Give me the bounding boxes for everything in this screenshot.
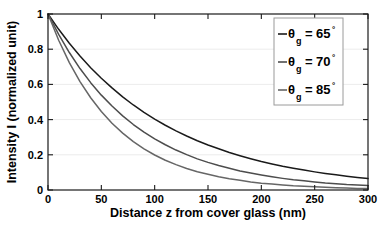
legend-degree-symbol: ° [332, 53, 335, 62]
legend: θg=65°θg=70°θg=85° [274, 18, 343, 105]
y-tick-label: 0.6 [28, 78, 43, 90]
legend-theta-symbol: θ [288, 26, 295, 41]
y-tick-label: 0 [37, 184, 43, 196]
x-tick-label: 200 [252, 193, 270, 205]
y-tick-label: 0.4 [28, 114, 44, 126]
legend-value: 85 [316, 82, 330, 97]
legend-subscript: g [296, 36, 302, 46]
y-tick-label: 0.2 [28, 149, 43, 161]
legend-value: 65 [316, 26, 330, 41]
x-tick-label: 100 [145, 193, 163, 205]
legend-equals: = [305, 54, 313, 69]
legend-subscript: g [296, 92, 302, 102]
x-tick-label: 150 [199, 193, 217, 205]
y-tick-label: 1 [37, 8, 43, 20]
x-tick-label: 300 [359, 193, 377, 205]
legend-equals: = [305, 26, 313, 41]
legend-subscript: g [296, 64, 302, 74]
legend-theta-symbol: θ [288, 54, 295, 69]
y-axis-title: Intensity I (normalized unit) [5, 21, 19, 184]
x-tick-label: 50 [95, 193, 107, 205]
legend-theta-symbol: θ [288, 82, 295, 97]
x-tick-label: 0 [45, 193, 51, 205]
legend-degree-symbol: ° [332, 81, 335, 90]
legend-equals: = [305, 82, 313, 97]
figure-container: 050100150200250300 00.20.40.60.81 Distan… [0, 0, 389, 228]
legend-value: 70 [316, 54, 330, 69]
y-tick-label: 0.8 [28, 43, 43, 55]
legend-degree-symbol: ° [332, 25, 335, 34]
chart-canvas: 050100150200250300 00.20.40.60.81 Distan… [0, 0, 389, 228]
x-tick-label: 250 [305, 193, 323, 205]
x-axis-title: Distance z from cover glass (nm) [110, 206, 306, 220]
